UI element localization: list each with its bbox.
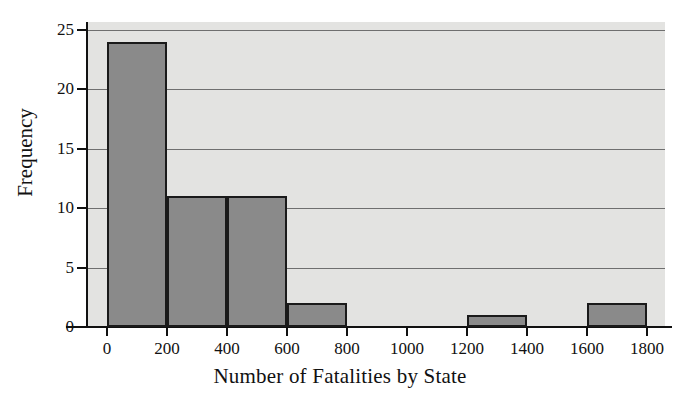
x-tick-label: 800 bbox=[317, 340, 377, 357]
y-axis-label: Frequency bbox=[13, 43, 38, 263]
y-tick-label: 15 bbox=[34, 140, 74, 157]
y-tick-label: 10 bbox=[34, 199, 74, 216]
x-tick-label: 1800 bbox=[617, 340, 677, 357]
y-tick-mark bbox=[77, 29, 86, 31]
x-tick-label: 600 bbox=[257, 340, 317, 357]
y-tick-mark bbox=[77, 207, 86, 209]
gridline bbox=[87, 149, 665, 150]
x-tick-mark bbox=[466, 327, 468, 336]
histogram-figure: 0510152025 02004006008001000120014001600… bbox=[0, 0, 680, 407]
y-tick-label: 25 bbox=[34, 21, 74, 38]
x-tick-mark bbox=[226, 327, 228, 336]
x-tick-mark bbox=[286, 327, 288, 336]
histogram-bar bbox=[107, 42, 167, 327]
y-tick-mark bbox=[77, 148, 86, 150]
x-tick-mark bbox=[106, 327, 108, 336]
y-tick-mark bbox=[77, 326, 86, 328]
x-tick-mark bbox=[526, 327, 528, 336]
y-tick-label: 5 bbox=[34, 259, 74, 276]
x-tick-mark bbox=[586, 327, 588, 336]
x-tick-mark bbox=[166, 327, 168, 336]
y-axis-line bbox=[86, 22, 88, 328]
x-tick-label: 1600 bbox=[557, 340, 617, 357]
x-tick-mark bbox=[406, 327, 408, 336]
x-tick-label: 1400 bbox=[497, 340, 557, 357]
y-tick-label: 20 bbox=[34, 80, 74, 97]
histogram-bar bbox=[227, 196, 287, 327]
histogram-bar bbox=[287, 303, 347, 327]
x-tick-label: 0 bbox=[77, 340, 137, 357]
x-tick-label: 1200 bbox=[437, 340, 497, 357]
histogram-bar bbox=[167, 196, 227, 327]
y-tick-label: 0 bbox=[34, 318, 74, 335]
y-tick-mark bbox=[77, 267, 86, 269]
x-tick-mark bbox=[346, 327, 348, 336]
y-tick-mark bbox=[77, 88, 86, 90]
x-axis-label: Number of Fatalities by State bbox=[0, 364, 680, 389]
x-tick-mark bbox=[646, 327, 648, 336]
x-tick-label: 400 bbox=[197, 340, 257, 357]
histogram-bar bbox=[467, 315, 527, 327]
gridline bbox=[87, 30, 665, 31]
x-tick-label: 1000 bbox=[377, 340, 437, 357]
gridline bbox=[87, 89, 665, 90]
x-tick-label: 200 bbox=[137, 340, 197, 357]
histogram-bar bbox=[587, 303, 647, 327]
